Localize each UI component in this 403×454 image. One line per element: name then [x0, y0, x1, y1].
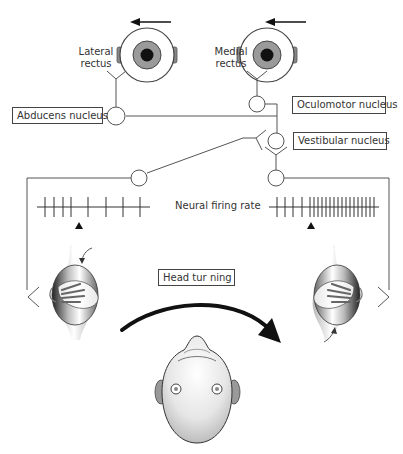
left-eye-icon	[117, 28, 177, 82]
right-eye-direction-arrow-icon	[265, 18, 306, 26]
left-baseline-marker-icon	[75, 222, 83, 229]
oculomotor-neuron	[249, 96, 265, 112]
right-afferent-neuron	[268, 170, 284, 186]
left-ampulla-icon	[50, 245, 98, 340]
medial-rectus-label-line1: Medial	[213, 46, 249, 58]
right-baseline-marker-icon	[307, 222, 315, 229]
left-eye-direction-arrow-icon	[130, 18, 171, 26]
oculomotor-nucleus-label: Oculomotor nucleus	[292, 96, 386, 114]
right-firing-rate-raster	[269, 197, 379, 217]
right-nerve-end-icon	[378, 287, 389, 307]
lateral-rectus-label-line1: Lateral	[76, 46, 116, 58]
left-nerve-end-icon	[28, 287, 39, 307]
neural-firing-rate-label: Neural firing rate	[175, 200, 261, 212]
head-turning-label: Head tur ning	[158, 269, 235, 286]
diagram-canvas	[0, 0, 403, 454]
lateral-rectus-label-line2: rectus	[76, 58, 116, 70]
abducens-nucleus-label: Abducens nucleus	[12, 107, 103, 124]
vestibular-nucleus-label: Vestibular nucleus	[293, 132, 387, 150]
medial-rectus-label: Medial rectus	[213, 46, 249, 70]
abducens-neuron	[107, 107, 125, 125]
left-afferent-neuron	[131, 170, 147, 186]
left-firing-rate-raster	[37, 197, 150, 217]
vestibular-neuron	[268, 133, 284, 149]
right-ampulla-icon	[313, 245, 362, 342]
medial-rectus-label-line2: rectus	[213, 58, 249, 70]
head-top-view-icon	[155, 336, 240, 443]
lateral-rectus-label: Lateral rectus	[76, 46, 116, 70]
